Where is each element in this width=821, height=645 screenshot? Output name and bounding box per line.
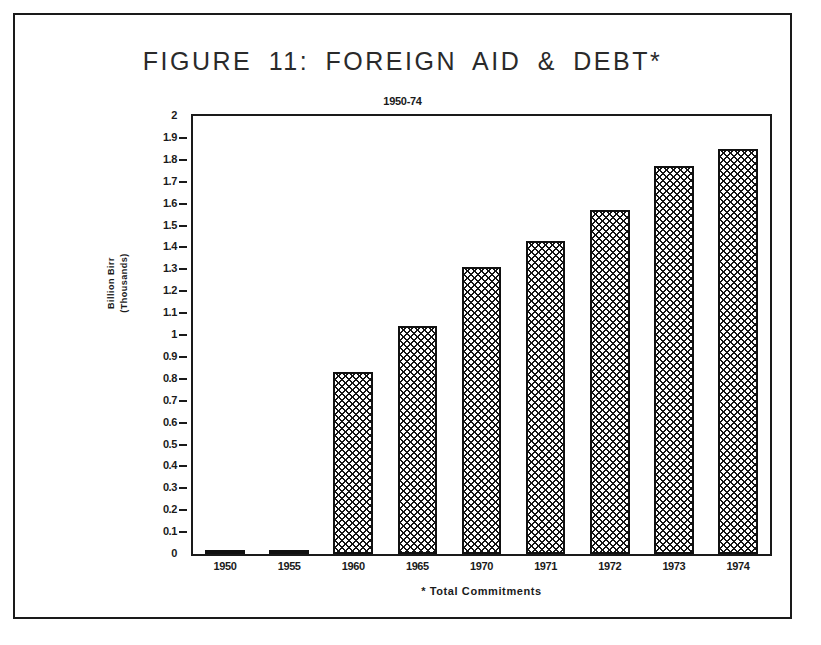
y-axis-tick-mark [179,181,187,183]
y-axis-title-line2: (Thousands) [118,218,131,348]
bar [398,326,438,554]
bar-slot [205,116,245,554]
y-axis-tick-label: 0.3 [163,481,177,493]
y-axis-tick-mark [179,334,187,336]
bar-slot [398,116,438,554]
figure-page-border: FIGURE 11: FOREIGN AID & DEBT* 1950-74 2… [13,13,792,619]
y-axis-tick-label: 1.5 [163,219,177,231]
y-axis-tick-label: 1.8 [163,153,177,165]
y-axis-tick-mark [179,444,187,446]
bar-slot [526,116,566,554]
y-axis-tick-mark [179,290,187,292]
y-axis-tick-mark [179,246,187,248]
bar-slot [718,116,758,554]
page-title: FIGURE 11: FOREIGN AID & DEBT* [15,47,790,76]
x-axis-tick-label: 1960 [321,560,385,572]
bar [269,550,309,554]
y-axis-tick-label: 0.4 [163,459,177,471]
y-axis-tick-mark [179,203,187,205]
x-axis: 195019551960196519701971197219731974 [193,560,770,580]
y-axis-tick-label: 0.1 [163,525,177,537]
bar-slot [654,116,694,554]
x-axis-tick-label: 1971 [514,560,578,572]
y-axis-tick-mark [179,465,187,467]
y-axis-tick-mark [179,378,187,380]
y-axis-tick-label: 1 [171,328,177,340]
y-axis-tick-mark [179,487,187,489]
bar-series [193,116,770,554]
y-axis-tick-label: 0.8 [163,372,177,384]
y-axis-tick-label: 1.6 [163,197,177,209]
y-axis-tick-mark [179,159,187,161]
chart-subtitle: 1950-74 [15,95,790,107]
bar-slot [462,116,502,554]
y-axis-tick-label: 0.6 [163,416,177,428]
bar [462,267,502,554]
x-axis-footnote: * Total Commitments [191,585,772,597]
y-axis-tick-mark [179,509,187,511]
y-axis-tick-label: 1.4 [163,240,177,252]
y-axis-tick-mark [179,312,187,314]
y-axis-tick-mark [179,400,187,402]
y-axis-tick-label: 0.2 [163,503,177,515]
y-axis-tick-mark [179,225,187,227]
bar [654,166,694,554]
bar-slot [333,116,373,554]
y-axis-tick-label: 0.5 [163,438,177,450]
y-axis-tick-label: 1.3 [163,262,177,274]
y-axis-tick-label: 0.9 [163,350,177,362]
x-axis-tick-label: 1955 [257,560,321,572]
y-axis-tick-mark [179,422,187,424]
y-axis-tick-label: 1.1 [163,306,177,318]
x-axis-tick-label: 1972 [578,560,642,572]
bar-slot [269,116,309,554]
y-axis-title-line1: Billion Birr [105,218,118,348]
y-axis-tick-label: 1.9 [163,131,177,143]
bar [526,241,566,554]
y-axis-tick-label: 1.7 [163,175,177,187]
bar-slot [590,116,630,554]
bar [590,210,630,554]
bar [205,550,245,554]
y-axis: 21.91.81.71.61.51.41.31.21.110.90.80.70.… [133,114,187,556]
y-axis-title: Billion Birr (Thousands) [105,218,131,348]
y-axis-tick-mark [179,268,187,270]
y-axis-tick-mark [179,531,187,533]
x-axis-tick-label: 1970 [449,560,513,572]
y-axis-tick-mark [179,137,187,139]
bar [333,372,373,554]
y-axis-tick-mark [179,356,187,358]
x-axis-tick-label: 1974 [706,560,770,572]
y-axis-tick-label: 2 [171,109,177,121]
bar [718,149,758,554]
y-axis-tick-label: 0.7 [163,394,177,406]
x-axis-tick-label: 1965 [385,560,449,572]
x-axis-tick-label: 1973 [642,560,706,572]
y-axis-tick-label: 0 [171,547,177,559]
x-axis-tick-label: 1950 [193,560,257,572]
y-axis-tick-label: 1.2 [163,284,177,296]
